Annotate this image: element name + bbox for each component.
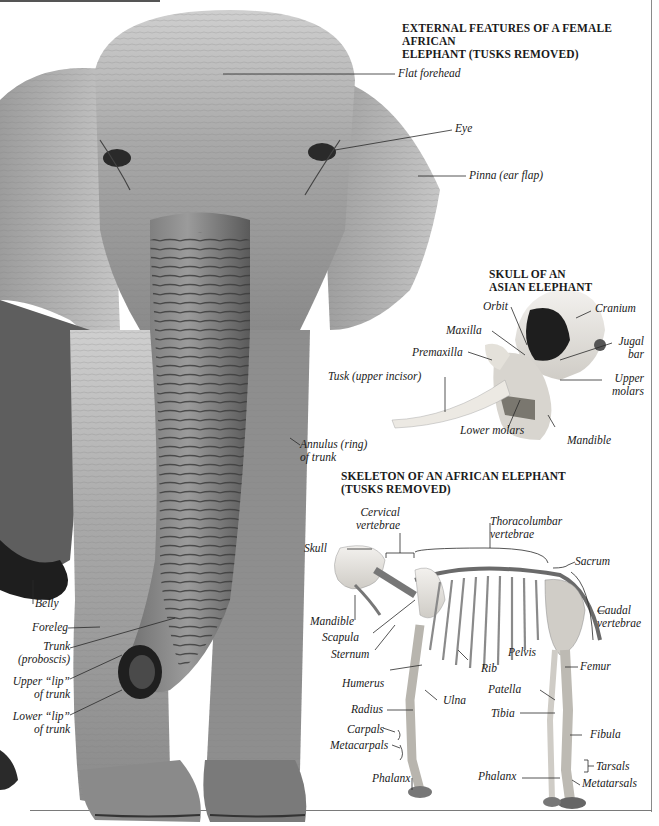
label-annulus: Annulus (ring) of trunk — [300, 438, 367, 464]
label-upper-lip-line-1: Upper “lip” — [5, 675, 70, 688]
label-premaxilla: Premaxilla — [412, 346, 463, 359]
label-upper-lip-line-2: of trunk — [5, 688, 70, 701]
label-cervical-line-2: vertebrae — [350, 519, 400, 532]
label-tibia: Tibia — [491, 707, 515, 720]
heading-skeleton: SKELETON OF AN AFRICAN ELEPHANT (TUSKS R… — [341, 470, 566, 496]
label-lower-lip-line-2: of trunk — [5, 723, 70, 736]
label-flat-forehead: Flat forehead — [398, 67, 461, 80]
label-caudal-line-1: Caudal — [597, 604, 641, 617]
label-humerus: Humerus — [342, 677, 384, 690]
label-phalanx-front: Phalanx — [372, 772, 410, 785]
label-upper-molars: Upper molars — [600, 372, 644, 398]
label-phalanx-hind: Phalanx — [478, 770, 516, 783]
heading-line-2: ASIAN ELEPHANT — [489, 281, 592, 294]
heading-line-2: ELEPHANT (TUSKS REMOVED) — [402, 48, 659, 61]
label-mandible-skeleton: Mandible — [310, 615, 354, 628]
label-rib: Rib — [481, 662, 497, 675]
label-pinna: Pinna (ear flap) — [469, 169, 543, 182]
heading-line-2: (TUSKS REMOVED) — [341, 483, 566, 496]
label-mandible-skull: Mandible — [567, 434, 611, 447]
label-cervical-vertebrae: Cervical vertebrae — [350, 506, 400, 532]
label-trunk-line-2: (proboscis) — [10, 653, 70, 666]
label-fibula: Fibula — [590, 728, 621, 741]
label-ulna: Ulna — [443, 694, 466, 707]
label-jugal-line-2: bar — [600, 348, 644, 361]
label-lower-lip-line-1: Lower “lip” — [5, 710, 70, 723]
label-caudal-vertebrae: Caudal vertebrae — [597, 604, 641, 630]
label-metatarsals: Metatarsals — [582, 777, 637, 790]
heading-external-features: EXTERNAL FEATURES OF A FEMALE AFRICAN EL… — [402, 22, 659, 61]
heading-line-1: SKULL OF AN — [489, 268, 592, 281]
label-annulus-line-2: of trunk — [300, 451, 367, 464]
label-foreleg: Foreleg — [20, 621, 68, 634]
label-upper-lip: Upper “lip” of trunk — [5, 675, 70, 701]
heading-skull: SKULL OF AN ASIAN ELEPHANT — [489, 268, 592, 294]
label-radius: Radius — [351, 703, 383, 716]
label-caudal-line-2: vertebrae — [597, 617, 641, 630]
label-trunk: Trunk (proboscis) — [10, 640, 70, 666]
heading-line-1: SKELETON OF AN AFRICAN ELEPHANT — [341, 470, 566, 483]
label-trunk-line-1: Trunk — [10, 640, 70, 653]
label-lower-molars: Lower molars — [460, 424, 524, 437]
label-metacarpals: Metacarpals — [330, 739, 388, 752]
label-jugal-line-1: Jugal — [600, 335, 644, 348]
label-upper-molars-line-2: molars — [600, 385, 644, 398]
label-tusk: Tusk (upper incisor) — [328, 370, 421, 383]
label-thoracolumbar-line-1: Thoracolumbar — [490, 515, 562, 528]
label-cervical-line-1: Cervical — [350, 506, 400, 519]
illustration-layer — [0, 0, 659, 826]
label-pelvis: Pelvis — [508, 646, 536, 659]
label-skull: Skull — [304, 542, 327, 555]
label-carpals: Carpals — [347, 723, 384, 736]
label-maxilla: Maxilla — [446, 324, 482, 337]
label-tarsals: Tarsals — [596, 760, 629, 773]
label-patella: Patella — [488, 683, 521, 696]
label-upper-molars-line-1: Upper — [600, 372, 644, 385]
label-thoracolumbar-vertebrae: Thoracolumbar vertebrae — [490, 515, 562, 541]
label-orbit: Orbit — [483, 300, 508, 313]
label-jugal-bar: Jugal bar — [600, 335, 644, 361]
label-lower-lip: Lower “lip” of trunk — [5, 710, 70, 736]
heading-line-1: EXTERNAL FEATURES OF A FEMALE AFRICAN — [402, 22, 659, 48]
page: EXTERNAL FEATURES OF A FEMALE AFRICAN EL… — [0, 0, 659, 826]
label-sternum: Sternum — [331, 648, 369, 661]
label-annulus-line-1: Annulus (ring) — [300, 438, 367, 451]
label-thoracolumbar-line-2: vertebrae — [490, 528, 562, 541]
label-femur: Femur — [580, 660, 611, 673]
label-cranium: Cranium — [595, 302, 636, 315]
label-eye: Eye — [455, 122, 472, 135]
label-scapula: Scapula — [322, 631, 359, 644]
label-sacrum: Sacrum — [575, 555, 610, 568]
label-belly: Belly — [35, 597, 59, 610]
